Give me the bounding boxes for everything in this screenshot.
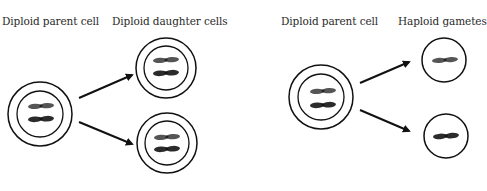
meiosis-arrow-up [360,62,409,83]
mitosis-daughter-cell-bottom [137,113,197,173]
mitosis-arrow-up [79,75,132,98]
meiosis-gamete-bottom [424,114,468,158]
mitosis-parent-cell [8,82,72,146]
mitosis-arrow-down [79,122,132,144]
mitosis-daughter-cell-top [136,38,196,98]
meiosis-gamete-top [422,38,466,82]
meiosis-arrow-down [360,110,409,131]
meiosis-parent-cell [289,65,353,129]
